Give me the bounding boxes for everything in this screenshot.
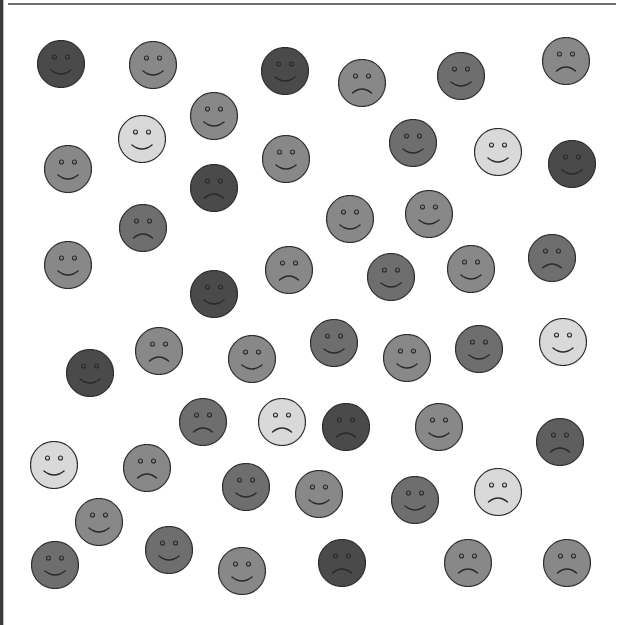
- frowny-face-icon: [318, 539, 366, 587]
- smiley-face-icon: [222, 463, 270, 511]
- smiley-face-icon: [326, 195, 374, 243]
- smiley-face-icon: [190, 270, 238, 318]
- smiley-face-icon: [37, 40, 85, 88]
- smiley-face-icon: [455, 325, 503, 373]
- smiley-face-icon: [145, 526, 193, 574]
- smiley-face-icon: [548, 140, 596, 188]
- frowny-face-icon: [258, 398, 306, 446]
- smiley-face-icon: [261, 47, 309, 95]
- faces-canvas: [0, 0, 627, 625]
- frowny-face-icon: [322, 403, 370, 451]
- smiley-face-icon: [405, 190, 453, 238]
- frowny-face-icon: [444, 539, 492, 587]
- frowny-face-icon: [542, 37, 590, 85]
- frowny-face-icon: [474, 468, 522, 516]
- smiley-face-icon: [190, 92, 238, 140]
- frowny-face-icon: [528, 234, 576, 282]
- smiley-face-icon: [383, 334, 431, 382]
- frowny-face-icon: [123, 444, 171, 492]
- smiley-face-icon: [262, 135, 310, 183]
- smiley-face-icon: [295, 470, 343, 518]
- smiley-face-icon: [389, 119, 437, 167]
- smiley-face-icon: [474, 128, 522, 176]
- frowny-face-icon: [543, 539, 591, 587]
- smiley-face-icon: [539, 318, 587, 366]
- smiley-face-icon: [218, 547, 266, 595]
- smiley-face-icon: [367, 253, 415, 301]
- smiley-face-icon: [310, 319, 358, 367]
- frowny-face-icon: [190, 164, 238, 212]
- smiley-face-icon: [447, 245, 495, 293]
- frowny-face-icon: [338, 59, 386, 107]
- smiley-face-icon: [228, 335, 276, 383]
- smiley-face-icon: [129, 41, 177, 89]
- smiley-face-icon: [31, 541, 79, 589]
- smiley-face-icon: [75, 498, 123, 546]
- smiley-face-icon: [66, 349, 114, 397]
- frowny-face-icon: [119, 204, 167, 252]
- smiley-face-icon: [30, 441, 78, 489]
- smiley-face-icon: [391, 476, 439, 524]
- frowny-face-icon: [536, 418, 584, 466]
- frowny-face-icon: [265, 246, 313, 294]
- smiley-face-icon: [44, 241, 92, 289]
- smiley-face-icon: [44, 145, 92, 193]
- frowny-face-icon: [135, 327, 183, 375]
- smiley-face-icon: [415, 403, 463, 451]
- frowny-face-icon: [179, 398, 227, 446]
- smiley-face-icon: [437, 52, 485, 100]
- smiley-face-icon: [118, 115, 166, 163]
